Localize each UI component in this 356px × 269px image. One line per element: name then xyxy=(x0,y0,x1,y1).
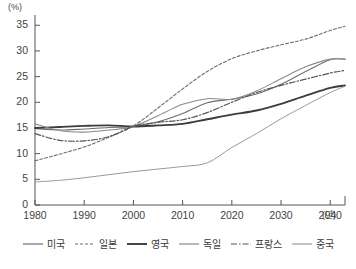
x-axis-tick-label: 2020 xyxy=(212,209,252,221)
line-chart-plot xyxy=(0,0,356,269)
legend-item-1[interactable]: 미국 xyxy=(22,236,65,251)
legend-label: 일본 xyxy=(99,236,117,251)
y-axis-tick-label: 25 xyxy=(2,70,28,82)
legend-swatch-icon xyxy=(291,240,313,248)
legend-label: 프랑스 xyxy=(255,236,282,251)
legend-swatch-icon xyxy=(22,240,44,248)
x-axis-unit-label: (년) xyxy=(322,208,336,221)
legend-label: 미국 xyxy=(47,236,65,251)
legend-item-6[interactable]: 중국 xyxy=(291,236,334,251)
series-line-4 xyxy=(35,59,345,133)
legend-swatch-icon xyxy=(230,240,252,248)
legend-swatch-icon xyxy=(126,240,148,248)
series-line-5 xyxy=(35,70,345,141)
y-axis-tick-label: 5 xyxy=(2,172,28,184)
chart-figure: (%) 05101520253035 198019902000201020202… xyxy=(0,0,356,269)
y-axis-tick-label: 20 xyxy=(2,95,28,107)
legend-label: 중국 xyxy=(316,236,334,251)
legend-swatch-icon xyxy=(178,240,200,248)
x-axis-tick-label: 2030 xyxy=(261,209,301,221)
series-line-6 xyxy=(35,86,345,182)
y-axis-tick-label: 30 xyxy=(2,44,28,56)
legend-item-2[interactable]: 일본 xyxy=(74,236,117,251)
x-axis-tick-label: 1980 xyxy=(15,209,55,221)
y-axis-tick-label: 10 xyxy=(2,147,28,159)
series-line-1 xyxy=(35,59,345,130)
legend-item-4[interactable]: 독일 xyxy=(178,236,221,251)
x-axis-tick-label: 2000 xyxy=(113,209,153,221)
y-axis-tick-label: 15 xyxy=(2,121,28,133)
series-line-3 xyxy=(35,85,345,128)
x-axis-tick-label: 2010 xyxy=(163,209,203,221)
legend-swatch-icon xyxy=(74,240,96,248)
legend-label: 독일 xyxy=(203,236,221,251)
chart-legend: 미국일본영국독일프랑스중국 xyxy=(0,236,356,251)
legend-item-3[interactable]: 영국 xyxy=(126,236,169,251)
legend-item-5[interactable]: 프랑스 xyxy=(230,236,282,251)
y-axis-tick-label: 35 xyxy=(2,18,28,30)
x-axis-tick-label: 1990 xyxy=(64,209,104,221)
legend-label: 영국 xyxy=(151,236,169,251)
